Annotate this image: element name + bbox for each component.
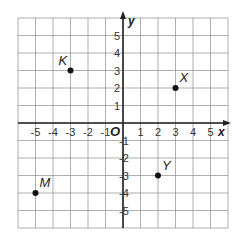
point-y-marker (155, 173, 161, 179)
x-tick-label: 5 (208, 126, 214, 138)
y-tick-label: 1 (114, 100, 120, 112)
x-tick-label: -2 (83, 126, 93, 138)
y-tick-label: 2 (114, 82, 120, 94)
y-tick-label: 3 (114, 65, 120, 77)
point-k-label: K (59, 53, 69, 68)
y-tick-label: -5 (119, 205, 129, 217)
x-tick-label: -3 (66, 126, 76, 138)
point-m-label: M (40, 175, 51, 190)
y-axis-arrow-icon (120, 11, 126, 19)
x-axis-label: x (217, 125, 226, 139)
x-tick-label: -1 (101, 126, 111, 138)
x-tick-label: -5 (31, 126, 41, 138)
y-tick-label: -4 (119, 187, 129, 199)
y-tick-label: -1 (119, 135, 129, 147)
y-tick-label: 5 (114, 30, 120, 42)
x-tick-label: 3 (173, 126, 179, 138)
y-tick-label: -2 (119, 152, 129, 164)
point-x-label: X (179, 70, 190, 85)
y-tick-label: -3 (119, 170, 129, 182)
point-x-marker (173, 85, 179, 91)
point-m-marker (33, 190, 39, 196)
y-axis-label: y (127, 14, 136, 28)
x-tick-label: 1 (138, 126, 144, 138)
coordinate-plane: x y O -5-4-3-2-11234554321-1-2-3-4-5 KXM… (0, 0, 237, 242)
point-y-label: Y (162, 158, 172, 173)
y-tick-label: 4 (114, 47, 120, 59)
x-tick-label: -4 (48, 126, 58, 138)
x-tick-label: 4 (190, 126, 196, 138)
point-k-marker (68, 68, 74, 74)
x-tick-label: 2 (155, 126, 161, 138)
